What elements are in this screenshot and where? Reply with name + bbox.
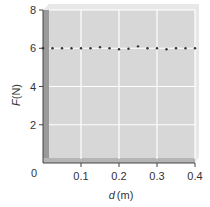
- data-point: [99, 46, 101, 48]
- y-tick-label: 2: [30, 119, 36, 131]
- data-point: [61, 47, 63, 49]
- data-point: [80, 47, 82, 49]
- data-point: [184, 47, 186, 49]
- data-point: [165, 48, 167, 50]
- y-tick-label: 4: [30, 81, 36, 93]
- data-point: [137, 45, 139, 47]
- y-tick-label: 8: [30, 4, 36, 16]
- data-point: [42, 47, 44, 49]
- origin-label: 0: [31, 167, 37, 179]
- data-point: [70, 47, 72, 49]
- x-axis-label: d(m): [109, 189, 134, 201]
- plot-panel: [45, 10, 195, 160]
- data-point: [127, 48, 129, 50]
- y-axis-label: F(N): [10, 84, 22, 106]
- data-point: [156, 47, 158, 49]
- data-point: [51, 47, 53, 49]
- data-point: [194, 47, 196, 49]
- x-tick-label: 0.3: [149, 170, 164, 182]
- data-point: [146, 47, 148, 49]
- force-vs-distance-chart: 24680.10.20.30.40 F(N) d(m): [0, 0, 210, 207]
- panel-left-shade: [43, 10, 49, 163]
- x-tick-label: 0.2: [111, 170, 126, 182]
- y-tick-label: 6: [30, 42, 36, 54]
- data-point: [175, 47, 177, 49]
- data-point: [108, 47, 110, 49]
- data-point: [118, 48, 120, 50]
- x-tick-label: 0.4: [187, 170, 202, 182]
- x-tick-label: 0.1: [73, 170, 88, 182]
- data-point: [89, 47, 91, 49]
